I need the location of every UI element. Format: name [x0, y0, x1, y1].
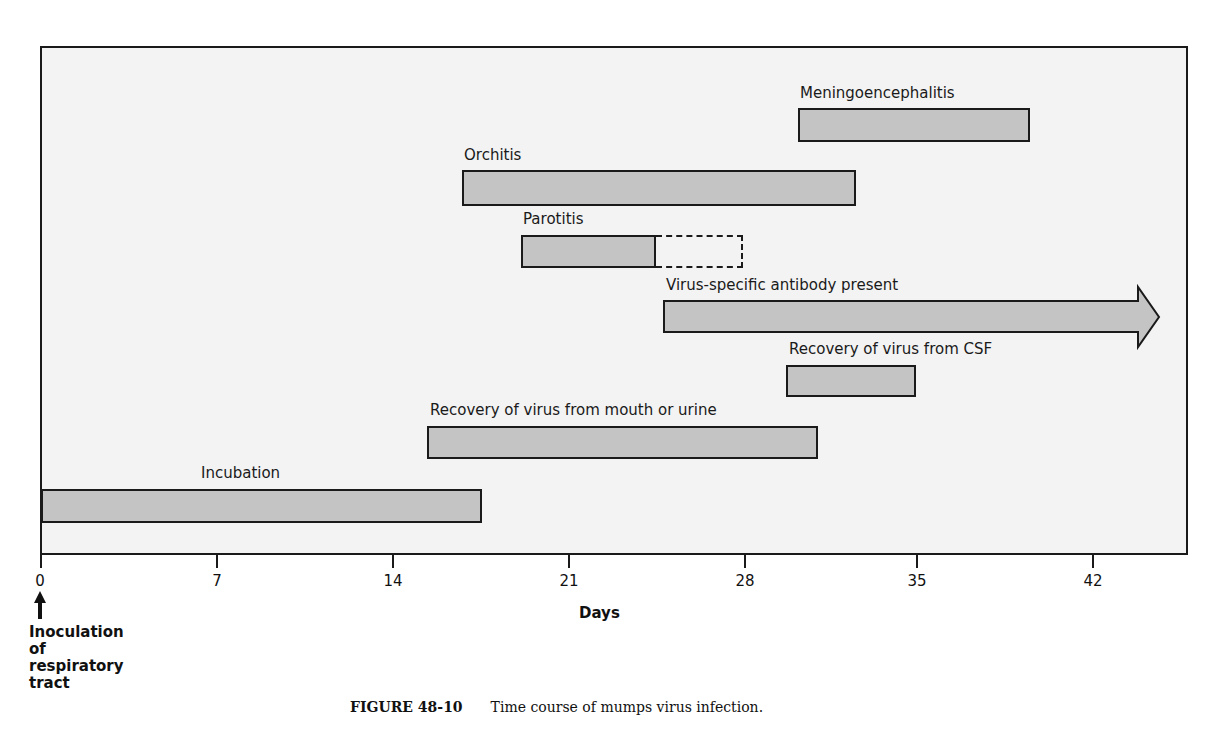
- x-tick-label: 28: [735, 572, 754, 590]
- x-tick: [392, 555, 394, 568]
- x-tick: [568, 555, 570, 568]
- csf-bar: [786, 365, 916, 397]
- inoculation-line: tract: [29, 675, 149, 692]
- x-tick-label: 14: [383, 572, 402, 590]
- figure-number: FIGURE 48-10: [350, 699, 463, 715]
- x-tick: [744, 555, 746, 568]
- inoculation-line: respiratory: [29, 658, 149, 675]
- csf-label: Recovery of virus from CSF: [789, 340, 992, 358]
- x-tick: [916, 555, 918, 568]
- inoculation-line: of: [29, 641, 149, 658]
- x-tick-label: 21: [559, 572, 578, 590]
- x-tick-label: 0: [35, 572, 45, 590]
- x-tick: [40, 555, 42, 568]
- antibody-arrow-icon: [0, 0, 1222, 738]
- up-arrow-icon: [33, 591, 47, 619]
- x-tick-label: 42: [1083, 572, 1102, 590]
- figure-caption: FIGURE 48-10Time course of mumps virus i…: [350, 699, 763, 715]
- x-axis-label: Days: [579, 604, 620, 622]
- x-tick-label: 7: [212, 572, 222, 590]
- incubation-label: Incubation: [201, 464, 280, 482]
- mouth-urine-bar: [427, 426, 818, 459]
- caption-text: Time course of mumps virus infection.: [491, 699, 763, 715]
- inoculation-line: Inoculation: [29, 624, 149, 641]
- mouth-urine-label: Recovery of virus from mouth or urine: [430, 401, 717, 419]
- x-tick: [216, 555, 218, 568]
- inoculation-annotation: Inoculation of respiratory tract: [29, 624, 149, 692]
- incubation-bar: [41, 489, 482, 523]
- x-tick-label: 35: [907, 572, 926, 590]
- x-tick: [1092, 555, 1094, 568]
